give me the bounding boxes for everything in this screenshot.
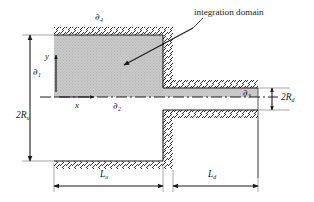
boundary-label-d3: ∂3 <box>243 88 251 99</box>
partial-subscript-d3: 3 <box>248 93 251 99</box>
integration-domain-label: integration domain <box>194 8 264 17</box>
lower-upstream-wall <box>54 161 163 169</box>
lower-downstream-wall <box>163 110 258 118</box>
boundary-label-d2: ∂2 <box>113 101 121 112</box>
dimension-text-2Ru: 2R <box>16 110 27 120</box>
y-axis-label: y <box>45 52 49 61</box>
boundary-label-d4: ∂4 <box>95 12 103 23</box>
dimension-label-Lu: Lu <box>100 170 108 180</box>
dimension-subscript-2Rd: d <box>292 97 295 103</box>
upper-upstream-wall <box>54 27 163 35</box>
partial-subscript-d1: 1 <box>38 72 41 78</box>
dimension-subscript-Lu: u <box>105 174 108 180</box>
boundary-label-d1: ∂1 <box>33 67 41 78</box>
dimension-text-2Rd: 2R <box>281 92 292 102</box>
partial-subscript-d2: 2 <box>118 106 121 112</box>
figure-root: integration domain ∂4 ∂1 ∂2 ∂3 y x 2Ru 2… <box>0 0 314 202</box>
integration-domain-leader-tail <box>193 18 203 28</box>
pipe-contraction-diagram <box>0 0 314 202</box>
lower-step-wall <box>163 110 173 169</box>
upper-step-wall <box>163 27 173 88</box>
dimension-label-2Rd: 2Rd <box>281 93 295 103</box>
partial-subscript-d4: 4 <box>100 17 103 23</box>
dimension-label-2Ru: 2Ru <box>16 111 30 121</box>
dimension-subscript-2Ru: u <box>27 115 30 121</box>
dimension-label-Ld: Ld <box>208 170 216 180</box>
dimension-subscript-Ld: d <box>213 174 216 180</box>
x-axis-label: x <box>75 101 79 110</box>
